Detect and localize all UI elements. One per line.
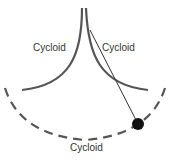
bottom-cycloid-label: Cycloid bbox=[70, 142, 103, 153]
diagram-canvas bbox=[0, 0, 170, 162]
bottom-cycloid-path bbox=[5, 88, 165, 140]
left-cycloid-label: Cycloid bbox=[33, 42, 66, 53]
right-cycloid-label: Cycloid bbox=[102, 42, 135, 53]
pendulum-bob bbox=[132, 118, 144, 130]
cycloid-pendulum-diagram: Cycloid Cycloid Cycloid bbox=[0, 0, 170, 162]
